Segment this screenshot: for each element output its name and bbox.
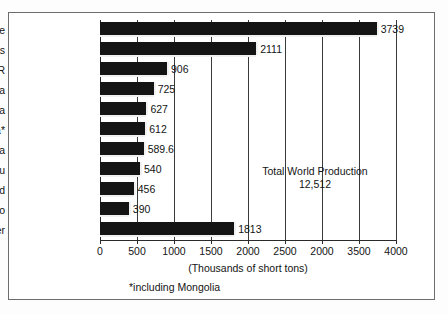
category-label: Indonesia <box>0 145 5 156</box>
category-label: Peru <box>0 165 5 176</box>
x-tick-label: 500 <box>128 245 146 257</box>
bar-row: United States2111 <box>9 40 434 60</box>
bar <box>100 162 140 175</box>
bar-value-label: 1813 <box>238 223 261 234</box>
x-tick-label: 2000 <box>310 245 333 257</box>
x-tick-label: 2500 <box>273 245 296 257</box>
bar-value-label: 3739 <box>381 23 404 34</box>
category-label: former USSR <box>0 65 5 76</box>
tick-mark-3500 <box>359 240 360 244</box>
bar-value-label: 725 <box>158 83 176 94</box>
tick-mark-2000 <box>248 240 249 244</box>
bar-row: Australia627 <box>9 100 434 120</box>
category-label: Chile <box>0 25 5 36</box>
tick-mark-0 <box>100 240 101 244</box>
tick-mark-4000 <box>396 240 397 244</box>
bar-value-label: 2111 <box>260 43 282 54</box>
x-axis-title: (Thousands of short tons) <box>100 262 396 274</box>
x-tick-label: 1500 <box>199 245 222 257</box>
bar <box>100 122 145 135</box>
category-label: Australia <box>0 105 5 116</box>
x-tick-label: 0 <box>97 245 103 257</box>
bar <box>100 42 256 55</box>
bar-row: Chile3739 <box>9 20 434 40</box>
bar <box>100 22 377 35</box>
x-tick-label: 4000 <box>384 245 407 257</box>
category-label: United States <box>0 45 5 56</box>
bar <box>100 62 167 75</box>
tick-mark-2500 <box>285 240 286 244</box>
bar-value-label: 540 <box>144 163 162 174</box>
bar <box>100 182 134 195</box>
bar <box>100 142 144 155</box>
category-label: Poland <box>0 185 5 196</box>
bar-row: Other1813 <box>9 220 434 240</box>
total-world-production-annotation: Total World Production 12,512 <box>240 165 390 191</box>
x-tick-label: 1000 <box>162 245 185 257</box>
bar <box>100 202 129 215</box>
footnote: *including Mongolia <box>129 281 220 293</box>
bar-row: former USSR906 <box>9 60 434 80</box>
bar-row: Mexico390 <box>9 200 434 220</box>
bar-value-label: 589.6 <box>148 143 174 154</box>
category-label: Mexico <box>0 205 5 216</box>
category-label: Canada <box>0 85 5 96</box>
tick-mark-1500 <box>211 240 212 244</box>
category-label: China* <box>0 125 5 136</box>
chart-figure: Chile3739United States2111former USSR906… <box>0 0 448 314</box>
bar-value-label: 612 <box>149 123 167 134</box>
bar <box>100 82 154 95</box>
bar-value-label: 627 <box>150 103 168 114</box>
bar <box>100 222 234 235</box>
bar-row: China*612 <box>9 120 434 140</box>
tick-mark-1000 <box>174 240 175 244</box>
bar-row: Canada725 <box>9 80 434 100</box>
tick-mark-3000 <box>322 240 323 244</box>
x-tick-label: 2000 <box>236 245 259 257</box>
annotation-line-1: Total World Production <box>240 165 390 178</box>
category-label: Other <box>0 225 5 236</box>
bar <box>100 102 146 115</box>
bar-row: Indonesia589.6 <box>9 140 434 160</box>
annotation-line-2: 12,512 <box>240 178 390 191</box>
bar-value-label: 906 <box>171 63 189 74</box>
figure-frame: Chile3739United States2111former USSR906… <box>8 12 435 300</box>
bar-value-label: 456 <box>138 183 156 194</box>
x-tick-label: 3500 <box>347 245 370 257</box>
tick-mark-500 <box>137 240 138 244</box>
bar-value-label: 390 <box>133 203 151 214</box>
